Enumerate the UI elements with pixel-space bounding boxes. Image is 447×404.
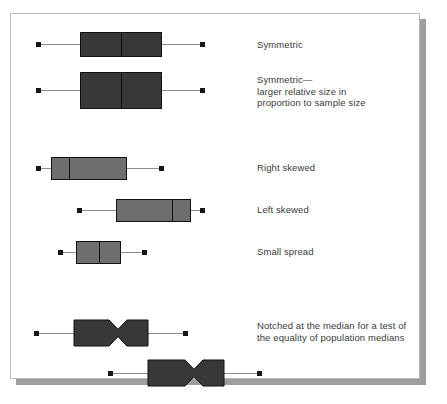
- label-symmetric: Symmetric: [257, 39, 303, 51]
- label-symmetric-large: Symmetric— larger relative size in propo…: [257, 74, 366, 109]
- plot-area: [0, 0, 447, 404]
- label-notched: Notched at the median for a test of the …: [257, 320, 406, 343]
- label-right-skewed: Right skewed: [257, 162, 315, 174]
- label-left-skewed: Left skewed: [257, 204, 309, 216]
- boxplot-figure: Symmetric Symmetric— larger relative siz…: [0, 0, 447, 404]
- label-small-spread: Small spread: [257, 246, 314, 258]
